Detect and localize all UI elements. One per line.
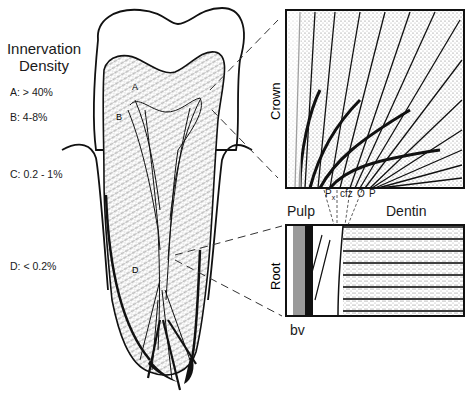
pulp-label: Pulp xyxy=(287,203,315,219)
tooth-diagram: A B D Crown Root xyxy=(0,0,472,395)
label-b: B xyxy=(116,112,122,122)
label-d: D xyxy=(132,265,139,275)
crown-label: Crown xyxy=(268,82,283,120)
crown-inset xyxy=(286,10,464,188)
zone-cfz: cfz xyxy=(340,188,353,199)
root-label: Root xyxy=(268,262,283,290)
zone-o: O xyxy=(357,188,365,199)
dentin-label: Dentin xyxy=(386,203,426,219)
zone-px: Px xyxy=(325,188,335,201)
zone-px-letter: P xyxy=(325,188,332,199)
bv-label: bv xyxy=(290,322,305,338)
root-inset xyxy=(286,225,464,316)
zone-p: P xyxy=(369,188,376,199)
label-a: A xyxy=(132,82,138,92)
zone-px-subscript: x xyxy=(332,194,336,201)
